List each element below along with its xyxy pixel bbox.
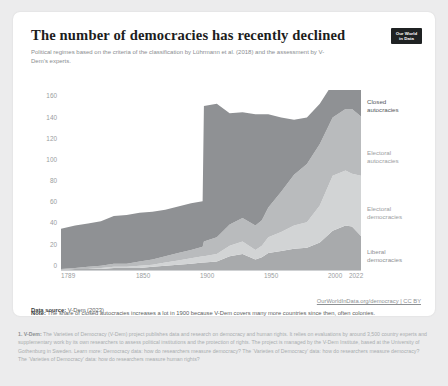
source-text: Data source: V-Dem (2023): [31, 307, 104, 313]
owid-source-link[interactable]: OurWorldInData.org/democracy | CC BY: [317, 298, 421, 304]
chart-footer: Data source: V-Dem (2023) OurWorldInData…: [31, 298, 421, 318]
y-tick-40: 40: [50, 219, 57, 226]
x-tick-2022: 2022: [349, 272, 363, 279]
series-label-electoral-democracies[interactable]: Electoral democracies: [367, 205, 402, 221]
y-tick-80: 80: [50, 177, 57, 184]
chart-subtitle: Political regimes based on the criteria …: [31, 48, 331, 67]
source-row: Data source: V-Dem (2023) OurWorldInData…: [31, 298, 421, 307]
series-label-closed-autocracies[interactable]: Closed autocracies: [367, 98, 399, 114]
footnote-marker: 1. V-Dem:: [18, 331, 42, 337]
card-header: The number of democracies has recently d…: [31, 27, 421, 66]
x-axis-labels: 1789 1850 1900 1950 2000 2022: [61, 272, 361, 284]
y-tick-160: 160: [46, 92, 57, 99]
stacked-area-chart: 160 140 120 100 80 60 40 20 0 1789 1850 …: [31, 90, 423, 286]
x-tick-1900: 1900: [200, 272, 214, 279]
source-label: Data source:: [31, 307, 66, 313]
source-value: V-Dem (2023): [68, 307, 104, 313]
series-labels: Closed autocracies Electoral autocracies…: [367, 90, 427, 270]
x-axis-line: [61, 270, 361, 271]
owid-logo-line2: in Data: [399, 36, 414, 42]
x-tick-1789: 1789: [61, 272, 75, 279]
series-label-electoral-autocracies[interactable]: Electoral autocracies: [367, 149, 399, 165]
series-label-liberal-democracies[interactable]: Liberal democracies: [367, 248, 402, 264]
chart-card: The number of democracies has recently d…: [13, 12, 435, 316]
owid-logo[interactable]: Our World in Data: [391, 28, 422, 44]
y-tick-0: 0: [53, 261, 57, 268]
footnote-text: The Varieties of Democracy (V-Dem) proje…: [18, 331, 427, 362]
y-tick-140: 140: [46, 113, 57, 120]
x-tick-1850: 1850: [136, 272, 150, 279]
screenshot-root: The number of democracies has recently d…: [0, 0, 448, 386]
page-title: The number of democracies has recently d…: [31, 27, 421, 44]
y-tick-60: 60: [50, 198, 57, 205]
y-tick-120: 120: [46, 134, 57, 141]
footnote: 1. V-Dem: The Varieties of Democracy (V-…: [18, 330, 428, 364]
area-series-svg: [61, 90, 361, 270]
plot-area: [61, 90, 361, 270]
x-tick-2000: 2000: [328, 272, 342, 279]
x-tick-1950: 1950: [264, 272, 278, 279]
y-tick-20: 20: [50, 240, 57, 247]
y-axis-labels: 160 140 120 100 80 60 40 20 0: [31, 90, 57, 270]
y-tick-100: 100: [46, 155, 57, 162]
